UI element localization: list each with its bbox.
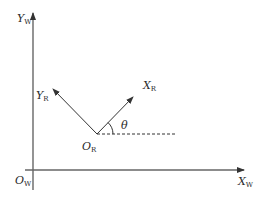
theta-label: θ (121, 119, 128, 132)
robot-origin-label: OR (82, 140, 97, 154)
angle-arc (108, 123, 113, 135)
robot-y-axis (53, 89, 97, 134)
robot-y-label: YR (36, 89, 49, 103)
world-x-label: XW (237, 175, 254, 189)
coordinate-frame-diagram: YW YR XR θ OR OW XW (0, 0, 265, 203)
robot-x-label: XR (142, 79, 157, 93)
world-y-label: YW (17, 12, 32, 26)
world-origin-label: OW (15, 174, 32, 188)
